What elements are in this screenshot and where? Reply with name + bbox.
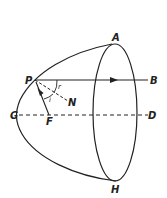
arrow-head-icon xyxy=(38,88,44,96)
arrow-head-icon xyxy=(110,77,118,83)
label-n: N xyxy=(68,97,77,108)
label-b: B xyxy=(150,75,158,86)
rim-ellipse xyxy=(93,44,137,181)
label-a: A xyxy=(111,32,120,43)
label-p: P xyxy=(25,75,33,86)
label-g: G xyxy=(10,110,18,121)
label-f: F xyxy=(46,116,53,127)
label-h: H xyxy=(111,184,120,195)
label-angle-i: i xyxy=(49,96,51,104)
label-angle-r: r xyxy=(58,83,62,91)
incident-ray-fp xyxy=(36,82,49,115)
angle-r-arc xyxy=(54,80,57,93)
label-d: D xyxy=(148,110,156,121)
paraboloid-diagram: A B P N G F D H r i xyxy=(0,0,167,198)
parabola-curve xyxy=(16,44,116,181)
